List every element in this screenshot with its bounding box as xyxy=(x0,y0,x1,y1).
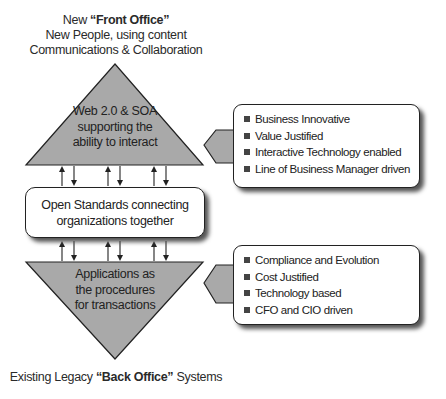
top-callout-box: Business Innovative Value Justified Inte… xyxy=(233,104,420,188)
square-bullet-icon xyxy=(244,274,250,280)
back-office-suffix: Systems xyxy=(173,370,222,384)
back-office-prefix: Existing Legacy xyxy=(10,370,96,384)
top-callout-item: Value Justified xyxy=(244,128,419,145)
bottom-callout-item: CFO and CIO driven xyxy=(244,302,419,319)
top-triangle-line-3: ability to interact xyxy=(55,135,175,151)
top-callout-item: Interactive Technology enabled xyxy=(244,144,419,161)
square-bullet-icon xyxy=(244,133,250,139)
bottom-callout-item: Compliance and Evolution xyxy=(244,252,419,269)
top-callout-item: Line of Business Manager driven xyxy=(244,161,419,178)
open-standards-line-1: Open Standards connecting xyxy=(41,197,188,213)
open-standards-box: Open Standards connecting organizations … xyxy=(25,187,205,238)
top-callout-pointer xyxy=(204,130,236,163)
square-bullet-icon xyxy=(244,307,250,313)
back-office-bold: “Back Office” xyxy=(96,370,173,384)
lower-connector-arrows xyxy=(62,241,166,261)
bottom-triangle-line-3: for transactions xyxy=(55,298,175,314)
square-bullet-icon xyxy=(244,116,250,122)
square-bullet-icon xyxy=(244,290,250,296)
top-triangle-line-2: supporting the xyxy=(55,120,175,136)
bottom-triangle-label: Applications as the procedures for trans… xyxy=(55,267,175,314)
bottom-callout-item: Technology based xyxy=(244,285,419,302)
bottom-callout-item: Cost Justified xyxy=(244,269,419,286)
bottom-triangle-line-2: the procedures xyxy=(55,283,175,299)
bottom-callout-box: Compliance and Evolution Cost Justified … xyxy=(233,245,420,325)
square-bullet-icon xyxy=(244,149,250,155)
top-callout-item: Business Innovative xyxy=(244,111,419,128)
square-bullet-icon xyxy=(244,257,250,263)
top-triangle-line-1: Web 2.0 & SOA xyxy=(55,104,175,120)
back-office-caption: Existing Legacy “Back Office” Systems xyxy=(0,370,232,385)
square-bullet-icon xyxy=(244,166,250,172)
bottom-triangle-line-1: Applications as xyxy=(55,267,175,283)
bottom-callout-pointer xyxy=(204,265,236,303)
top-triangle-label: Web 2.0 & SOA supporting the ability to … xyxy=(55,104,175,151)
open-standards-line-2: organizations together xyxy=(41,213,188,229)
upper-connector-arrows xyxy=(62,166,166,186)
